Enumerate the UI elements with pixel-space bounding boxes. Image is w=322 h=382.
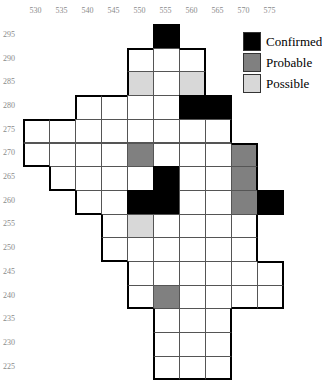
grid-cell-565-275 [205, 119, 232, 144]
grid-cell-550-280 [127, 95, 154, 120]
grid-cell-545-250 [101, 237, 128, 262]
grid-cell-555-285 [153, 71, 180, 96]
grid-cell-565-250 [205, 237, 232, 262]
grid-cell-555-275 [153, 119, 180, 144]
grid-cell-545-270 [101, 143, 128, 168]
y-label: 280 [3, 101, 27, 110]
grid-cell-555-280 [153, 95, 180, 120]
y-label: 295 [3, 30, 27, 39]
grid-cell-550-240 [127, 285, 154, 310]
grid-cell-540-270 [75, 143, 102, 168]
x-label: 535 [49, 6, 75, 15]
grid-cell-555-250 [153, 237, 180, 262]
grid-cell-545-275 [101, 119, 128, 144]
y-label: 230 [3, 338, 27, 347]
grid-cell-560-230 [179, 332, 206, 357]
x-label: 565 [205, 6, 231, 15]
grid-cell-555-230 [153, 332, 180, 357]
grid-cell-555-290 [153, 48, 180, 73]
x-label: 575 [257, 6, 283, 15]
grid-cell-560-275 [179, 119, 206, 144]
grid-cell-565-240 [205, 285, 232, 310]
x-label: 560 [179, 6, 205, 15]
grid-cell-565-270 [205, 143, 232, 168]
grid-cell-565-245 [205, 261, 232, 286]
grid-cell-530-275 [23, 119, 50, 144]
grid-cell-560-245 [179, 261, 206, 286]
grid-cell-565-235 [205, 308, 232, 333]
probable-swatch-icon [243, 53, 261, 72]
legend-label: Possible [266, 75, 309, 93]
grid-cell-560-250 [179, 237, 206, 262]
grid-cell-545-280 [101, 95, 128, 120]
y-label: 265 [3, 172, 27, 181]
grid-cell-560-260 [179, 190, 206, 215]
confirmed-swatch-icon [243, 32, 261, 51]
x-label: 550 [127, 6, 153, 15]
y-label: 240 [3, 291, 27, 300]
grid-cell-550-250 [127, 237, 154, 262]
grid-cell-555-295 [153, 24, 180, 49]
grid-cell-570-250 [231, 237, 258, 262]
grid-cell-560-285 [179, 71, 206, 96]
grid-cell-545-260 [101, 190, 128, 215]
y-label: 245 [3, 267, 27, 276]
grid-cell-560-255 [179, 214, 206, 239]
grid-cell-540-280 [75, 95, 102, 120]
grid-cell-540-265 [75, 166, 102, 191]
grid-cell-555-265 [153, 166, 180, 191]
grid-cell-550-265 [127, 166, 154, 191]
grid-cell-575-260 [257, 190, 284, 215]
grid-cell-560-225 [179, 356, 206, 381]
legend-label: Confirmed [266, 33, 322, 51]
grid-cell-540-275 [75, 119, 102, 144]
grid-cell-555-225 [153, 356, 180, 381]
grid-cell-570-240 [231, 285, 258, 310]
grid-cell-565-260 [205, 190, 232, 215]
y-label: 225 [3, 362, 27, 371]
grid-cell-565-265 [205, 166, 232, 191]
grid-cell-565-255 [205, 214, 232, 239]
grid-cell-575-240 [257, 285, 284, 310]
grid-cell-560-290 [179, 48, 206, 73]
grid-cell-565-280 [205, 95, 232, 120]
grid-cell-535-275 [49, 119, 76, 144]
grid-cell-570-260 [231, 190, 258, 215]
grid-cell-565-230 [205, 332, 232, 357]
grid-cell-575-245 [257, 261, 284, 286]
x-label: 545 [101, 6, 127, 15]
grid-cell-550-270 [127, 143, 154, 168]
grid-cell-555-260 [153, 190, 180, 215]
grid-cell-550-285 [127, 71, 154, 96]
x-label: 530 [23, 6, 49, 15]
grid-cell-555-245 [153, 261, 180, 286]
possible-swatch-icon [243, 74, 261, 93]
y-label: 290 [3, 54, 27, 63]
x-label: 555 [153, 6, 179, 15]
grid-cell-570-255 [231, 214, 258, 239]
grid-cell-550-290 [127, 48, 154, 73]
grid-cell-530-270 [23, 143, 50, 168]
grid-cell-540-260 [75, 190, 102, 215]
y-label: 235 [3, 314, 27, 323]
grid-cell-550-275 [127, 119, 154, 144]
x-label: 570 [231, 6, 257, 15]
x-label: 540 [75, 6, 101, 15]
grid-cell-555-270 [153, 143, 180, 168]
grid-cell-545-265 [101, 166, 128, 191]
y-label: 250 [3, 243, 27, 252]
grid-cell-560-270 [179, 143, 206, 168]
y-label: 260 [3, 196, 27, 205]
grid-cell-555-255 [153, 214, 180, 239]
grid-cell-550-255 [127, 214, 154, 239]
grid-cell-570-265 [231, 166, 258, 191]
grid-cell-555-240 [153, 285, 180, 310]
grid-cell-535-270 [49, 143, 76, 168]
grid-cell-550-260 [127, 190, 154, 215]
grid-cell-570-245 [231, 261, 258, 286]
grid-cell-545-255 [101, 214, 128, 239]
grid-cell-535-265 [49, 166, 76, 191]
grid-cell-570-270 [231, 143, 258, 168]
legend-label: Probable [266, 54, 312, 72]
grid-cell-560-235 [179, 308, 206, 333]
